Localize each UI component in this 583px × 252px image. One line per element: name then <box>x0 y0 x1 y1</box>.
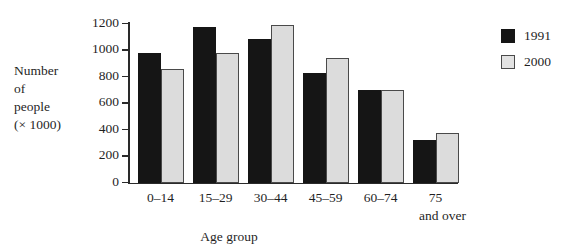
y-axis-tick-mark <box>122 182 128 184</box>
legend: 1991 2000 <box>501 25 551 77</box>
x-axis-category-label-line-1: 45–59 <box>309 190 343 205</box>
bar-group <box>193 24 239 183</box>
y-axis-tick-mark <box>122 76 128 78</box>
plot-area: 020040060080010001200 <box>128 22 458 184</box>
x-axis-title: Age group <box>0 229 458 245</box>
y-axis-tick-label: 1000 <box>92 41 119 57</box>
bar-1991-0–14 <box>138 53 161 182</box>
bar-2000-0–14 <box>161 69 184 182</box>
y-axis-tick-mark <box>122 155 128 157</box>
bar-1991-15–29 <box>193 27 216 182</box>
x-axis-category-label-line-1: 15–29 <box>199 190 233 205</box>
legend-item-2000: 2000 <box>501 51 551 72</box>
bar-chart-figure: Number of people (× 1000) 02004006008001… <box>0 0 583 252</box>
bar-2000-15–29 <box>216 53 239 183</box>
bar-group <box>138 24 184 183</box>
legend-label-1991: 1991 <box>524 28 551 44</box>
y-axis-tick-label: 0 <box>112 174 119 190</box>
y-axis-tick-label: 800 <box>99 68 119 84</box>
y-axis-tick-mark <box>122 49 128 51</box>
bar-group <box>248 24 294 183</box>
y-axis-tick-label: 200 <box>99 147 119 163</box>
bar-group <box>303 24 349 183</box>
y-axis-tick-label: 400 <box>99 121 119 137</box>
x-axis-category-label-line-1: 0–14 <box>147 190 174 205</box>
bar-2000-60–74 <box>381 90 404 182</box>
bar-2000-45–59 <box>326 58 349 183</box>
bar-2000-75-and-over <box>436 133 459 182</box>
bar-group <box>413 24 459 183</box>
legend-label-2000: 2000 <box>524 54 551 70</box>
x-axis-line <box>128 183 458 185</box>
x-axis-category-label: 75and over <box>396 190 476 224</box>
bar-1991-60–74 <box>358 90 381 183</box>
y-axis-tick-mark <box>122 129 128 131</box>
y-axis-tick-label: 1200 <box>92 15 119 31</box>
legend-item-1991: 1991 <box>501 25 551 46</box>
y-axis-title: Number of people (× 1000) <box>14 62 100 134</box>
y-axis-title-line-3: people <box>14 98 100 116</box>
x-axis-category-label-line-2: and over <box>410 208 476 224</box>
x-axis-category-label-line-1: 75 <box>429 190 443 205</box>
bar-group <box>358 24 404 183</box>
legend-swatch-2000-icon <box>501 55 515 69</box>
y-axis-title-line-1: Number <box>14 62 100 80</box>
x-axis-category-label-line-1: 30–44 <box>254 190 288 205</box>
bar-1991-75-and-over <box>413 140 436 182</box>
bar-1991-45–59 <box>303 73 326 183</box>
y-axis-tick-mark <box>122 102 128 104</box>
bar-groups <box>130 24 458 183</box>
x-axis-category-label-line-1: 60–74 <box>364 190 398 205</box>
y-axis-title-line-4: (× 1000) <box>14 116 100 134</box>
bar-2000-30–44 <box>271 25 294 183</box>
y-axis-tick-mark <box>122 23 128 25</box>
bar-1991-30–44 <box>248 39 271 183</box>
y-axis-title-line-2: of <box>14 80 100 98</box>
legend-swatch-1991-icon <box>501 29 515 43</box>
y-axis-tick-label: 600 <box>99 94 119 110</box>
